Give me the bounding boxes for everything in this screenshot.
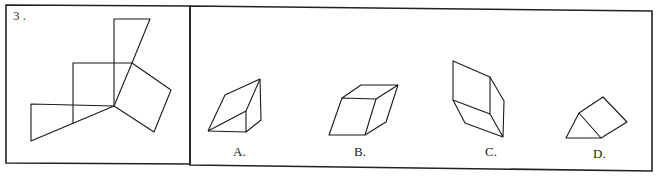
- option-b-label: B.: [354, 144, 366, 159]
- option-d-label: D.: [593, 146, 606, 161]
- option-c-figure: C.: [453, 61, 504, 159]
- option-c-bottom-face: [453, 100, 503, 137]
- options-panel: [190, 6, 652, 171]
- option-a-figure: A.: [208, 79, 261, 159]
- option-b-side-face: [365, 85, 398, 135]
- option-d-figure: D.: [566, 97, 627, 161]
- figure-canvas: 3 . A. B. C. D.: [0, 0, 656, 178]
- option-b-front-face: [329, 98, 376, 135]
- option-a-label: A.: [233, 144, 246, 159]
- option-c-front-face: [453, 61, 490, 114]
- net-left-square: [73, 63, 132, 124]
- option-b-top-face: [342, 85, 398, 99]
- option-d-slant-face: [579, 97, 627, 138]
- question-figure: 3 . A. B. C. D.: [0, 0, 656, 178]
- question-number: 3 .: [13, 8, 26, 23]
- option-c-label: C.: [485, 144, 497, 159]
- option-b-figure: B.: [329, 85, 398, 159]
- options-panel-border: [190, 6, 652, 171]
- unfolded-net: [31, 19, 171, 141]
- option-c-side-face: [490, 77, 504, 137]
- option-d-triangle-face: [566, 113, 601, 138]
- net-right-square: [114, 63, 171, 132]
- option-a-slant-face: [208, 79, 260, 131]
